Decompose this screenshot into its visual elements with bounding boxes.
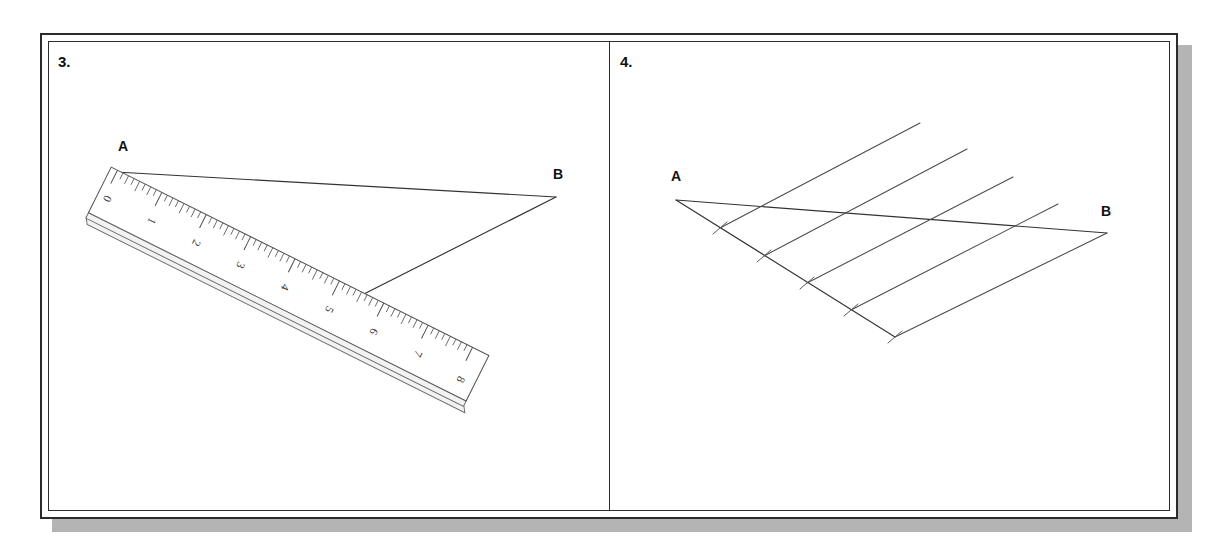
parallel-line-1 <box>720 123 920 228</box>
figure-construction-4 <box>676 123 1107 343</box>
parallel-line-4 <box>851 204 1058 310</box>
parallel-line-2 <box>764 149 967 256</box>
point-label-b-panel4: B <box>1101 203 1111 219</box>
tick-mark-5 <box>888 331 902 343</box>
parallel-line-3 <box>807 177 1013 283</box>
worksheet-page: 3. 4. <box>0 0 1213 558</box>
segment-a-b-4 <box>676 200 1107 233</box>
panel-4-drawing <box>0 0 1213 558</box>
point-label-a-panel4: A <box>671 168 681 184</box>
parallel-line-5-to-b <box>895 233 1107 337</box>
construction-ray-4 <box>676 200 895 337</box>
ray-tick-marks <box>713 222 902 343</box>
